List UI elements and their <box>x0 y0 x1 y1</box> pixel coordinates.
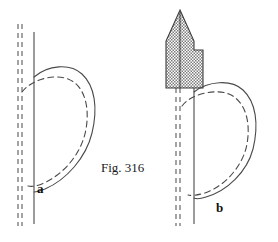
panel-a-teardrop-outline-dashed <box>22 77 87 186</box>
panel-b-dashed-guide-lines <box>176 88 180 226</box>
panel-label-b: b <box>216 200 223 215</box>
panel-b-teardrop-outline-dashed <box>182 92 248 196</box>
panel-label-a: a <box>37 181 44 196</box>
panel-a-dashed-guide-lines <box>18 24 22 226</box>
panel-b-hatched-wedge-region <box>166 10 203 88</box>
figure-caption: Fig. 316 <box>101 160 145 175</box>
panel-a-group: a <box>18 24 95 226</box>
figure-drawing: a Fig. 316 b <box>0 0 278 242</box>
panel-a-teardrop-outline-solid <box>34 67 95 192</box>
panel-b-group: b <box>166 10 256 226</box>
figure-container: a Fig. 316 b <box>0 0 278 242</box>
